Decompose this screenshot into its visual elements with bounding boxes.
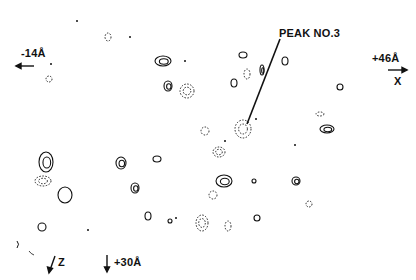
dashed-contour-peak <box>46 76 52 82</box>
dashed-contour-peak-inner <box>239 124 248 134</box>
dashed-contour-peak <box>316 112 324 116</box>
solid-contour-peak <box>337 84 343 90</box>
dot-feature <box>87 229 89 231</box>
solid-contour-peak <box>239 52 247 58</box>
dot-feature <box>129 36 131 38</box>
dashed-contour-peak <box>180 84 194 98</box>
solid-contour-peak <box>252 179 256 183</box>
x-axis-label: X <box>394 75 402 87</box>
bottom-axis-label: +30Å <box>114 256 141 268</box>
dashed-contour-peak-inner <box>216 149 223 155</box>
solid-contour-peak <box>231 79 237 87</box>
dashed-contour-peak-inner <box>39 178 48 184</box>
dashed-contour-peak <box>35 176 51 186</box>
solid-contour-peak <box>119 160 125 167</box>
solid-contour-peak <box>145 212 151 220</box>
dashed-contour-peak <box>201 127 209 135</box>
dashed-contour-peak <box>105 33 111 41</box>
dot-feature <box>255 118 257 120</box>
dashed-contour-peak <box>235 120 251 138</box>
solid-contour-peak <box>295 179 299 183</box>
dot-feature <box>50 63 52 65</box>
arrow-z-icon <box>48 256 56 273</box>
solid-contour-peak <box>262 68 264 74</box>
dot-feature <box>184 60 186 62</box>
z-axis-label: Z <box>58 256 65 268</box>
peak-label: PEAK NO.3 <box>279 27 340 39</box>
solid-contour-peak <box>254 215 260 221</box>
solid-contour-peak <box>159 59 168 65</box>
solid-contour-peak <box>282 57 288 65</box>
dashed-contour-peak <box>306 201 312 207</box>
peak-pointer-line <box>247 39 280 124</box>
dashed-contour-peak <box>225 221 231 231</box>
solid-contour-peak <box>168 219 172 223</box>
solid-contours <box>38 52 343 231</box>
solid-contour-peak <box>38 223 46 231</box>
dot-feature <box>76 20 78 22</box>
dashed-contour-peak-inner <box>183 87 191 95</box>
dashed-contour-peak <box>244 69 250 79</box>
solid-contour-peak <box>167 84 171 90</box>
solid-contour-peak <box>43 157 51 168</box>
dashed-contours <box>35 33 324 231</box>
edge-contour-fragment <box>29 251 34 255</box>
left-axis-label: -14Å <box>21 47 46 59</box>
solid-contour-peak <box>134 186 138 192</box>
dashed-contour-peak <box>213 147 225 157</box>
solid-contour-peak <box>153 156 161 162</box>
dot-feature <box>294 144 296 146</box>
edge-contour-fragment <box>17 241 19 248</box>
solid-contour-peak <box>58 187 72 203</box>
arrow-left-icon <box>16 64 34 69</box>
dot-feature <box>175 217 177 219</box>
dot-feature <box>224 140 226 142</box>
arrow-right-icon <box>388 68 407 73</box>
arrow-down-icon <box>105 255 110 272</box>
solid-contour-peak <box>324 127 332 131</box>
contour-map <box>0 0 416 280</box>
dashed-contour-peak-inner <box>199 219 206 228</box>
dashed-contour-peak <box>196 215 208 231</box>
right-axis-label: +46Å <box>372 52 399 64</box>
point-features <box>50 20 296 231</box>
dashed-contour-peak <box>209 191 217 199</box>
solid-contour-peak <box>220 178 229 185</box>
